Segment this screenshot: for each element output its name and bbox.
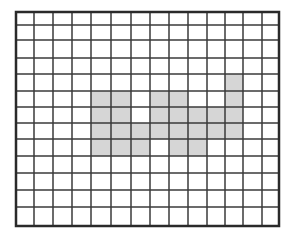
shaded-cell	[169, 139, 188, 156]
shaded-cell	[207, 107, 225, 123]
shaded-cell	[131, 139, 150, 156]
shaded-grid-diagram	[0, 0, 292, 238]
shaded-cell	[111, 123, 131, 139]
shaded-cell	[169, 107, 188, 123]
shaded-cell	[111, 91, 131, 107]
shaded-cell	[225, 91, 243, 107]
shaded-cell	[188, 139, 207, 156]
shaded-cell	[207, 123, 225, 139]
shaded-cell	[188, 107, 207, 123]
shaded-cell	[188, 123, 207, 139]
shaded-cell	[225, 123, 243, 139]
shaded-cell	[169, 123, 188, 139]
shaded-cell	[111, 139, 131, 156]
shaded-cell	[91, 107, 111, 123]
shaded-cell	[131, 123, 150, 139]
shaded-cell	[91, 139, 111, 156]
shaded-cell	[150, 123, 169, 139]
shaded-cell	[150, 91, 169, 107]
shaded-cell	[91, 123, 111, 139]
shaded-cell	[111, 107, 131, 123]
shaded-cell	[91, 91, 111, 107]
shaded-cell	[169, 91, 188, 107]
shaded-cell	[225, 74, 243, 91]
shaded-cell	[150, 107, 169, 123]
shaded-cells	[91, 74, 243, 156]
shaded-cell	[225, 107, 243, 123]
